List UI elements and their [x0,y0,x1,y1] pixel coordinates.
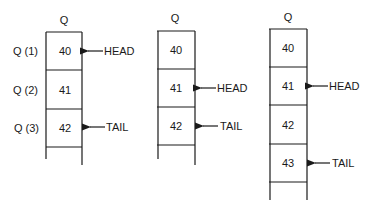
queue-cell: 42 [282,119,294,131]
queue-cell: 43 [282,157,294,169]
queue-title: Q [284,11,293,23]
tail-pointer-label: TAIL [332,157,354,169]
queue-diagram-3: Q 40 41 42 43 HEAD TAIL [269,11,360,200]
queue-cell: 40 [170,44,182,56]
queue-cell: 41 [170,82,182,94]
queue-cell: 41 [59,84,71,96]
head-pointer-label: HEAD [104,45,135,57]
queue-diagram-2: Q 40 41 42 HEAD TAIL [157,12,248,165]
queue-cell: 42 [170,120,182,132]
queue-cell: 40 [59,45,71,57]
row-label: Q (3) [14,122,39,134]
queue-diagram-1: Q 40 41 42 Q (1) Q (2) Q (3) HEAD TAIL [13,14,135,165]
queue-cell: 40 [282,42,294,54]
row-label: Q (1) [13,45,38,57]
tail-pointer-label: TAIL [106,121,128,133]
queue-diagrams: Q 40 41 42 Q (1) Q (2) Q (3) HEAD TAIL Q [0,0,375,211]
row-label: Q (2) [13,84,38,96]
queue-title: Q [171,12,180,24]
queue-title: Q [60,14,69,26]
head-pointer-label: HEAD [329,80,360,92]
queue-cell: 42 [59,122,71,134]
head-pointer-label: HEAD [217,82,248,94]
tail-pointer-label: TAIL [220,120,242,132]
queue-cell: 41 [282,80,294,92]
